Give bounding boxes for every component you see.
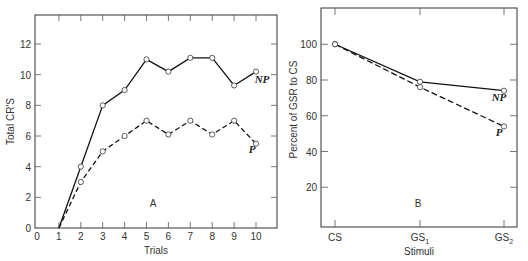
series-label-p: P [496, 126, 503, 138]
data-point [78, 179, 83, 184]
series-label-p: P [249, 143, 256, 155]
data-point [232, 118, 237, 123]
y-tick-label: 100 [300, 39, 317, 50]
data-point [144, 118, 149, 123]
x-tick-label: 0 [34, 231, 40, 242]
figure: 012345678910024681012TrialsTotal CR'SANP… [0, 0, 528, 261]
y-tick-label: 40 [306, 147, 318, 158]
data-point [122, 133, 127, 138]
data-point [210, 132, 215, 137]
x-axis-label: Stimuli [404, 246, 434, 257]
x-tick-label: GS1 [411, 232, 429, 245]
x-axis-label: Trials [144, 245, 168, 256]
x-tick-label: 8 [209, 231, 215, 242]
x-tick-label: 9 [231, 231, 237, 242]
data-point [78, 164, 83, 169]
data-point [210, 55, 215, 60]
panel-b-chart: CSGS1GS220406080100StimuliPercent of GSR… [288, 8, 517, 257]
y-tick-label: 2 [25, 192, 31, 203]
x-tick-label: 1 [56, 231, 62, 242]
y-tick-label: 80 [306, 75, 318, 86]
y-tick-label: 60 [306, 111, 318, 122]
x-tick-label: 3 [100, 231, 106, 242]
panel-a-frame [35, 15, 277, 228]
data-point [232, 83, 237, 88]
y-tick-label: 20 [306, 182, 318, 193]
series-line-np [59, 58, 256, 228]
y-axis-label: Percent of GSR to CS [288, 60, 299, 158]
panel-label: B [415, 198, 422, 209]
data-point [188, 118, 193, 123]
x-tick-label: 4 [122, 231, 128, 242]
x-tick-label: 5 [144, 231, 150, 242]
series-label-np: NP [254, 73, 270, 85]
data-point [144, 57, 149, 62]
data-point [122, 87, 127, 92]
y-axis-label: Total CR'S [5, 98, 16, 145]
x-tick-label: 10 [250, 231, 262, 242]
y-tick-label: 4 [25, 162, 31, 173]
x-tick-label: 7 [188, 231, 194, 242]
data-point [100, 103, 105, 108]
data-point [188, 55, 193, 60]
y-tick-label: 12 [20, 39, 32, 50]
y-tick-label: 0 [25, 223, 31, 234]
panel-a-chart: 012345678910024681012TrialsTotal CR'SANP… [5, 15, 277, 256]
x-tick-label: GS2 [495, 232, 513, 245]
data-point [417, 79, 422, 84]
series-line-p [59, 121, 256, 228]
x-tick-label: CS [328, 232, 342, 243]
data-point [417, 85, 422, 90]
y-tick-label: 10 [20, 70, 32, 81]
data-point [166, 132, 171, 137]
data-point [100, 149, 105, 154]
x-tick-label: 6 [166, 231, 172, 242]
data-point [166, 69, 171, 74]
y-tick-label: 8 [25, 100, 31, 111]
panel-label: A [150, 198, 157, 209]
y-tick-label: 6 [25, 131, 31, 142]
panel-b-frame [321, 8, 517, 227]
x-tick-label: 2 [78, 231, 84, 242]
data-point [332, 42, 337, 47]
series-label-np: NP [491, 91, 507, 103]
